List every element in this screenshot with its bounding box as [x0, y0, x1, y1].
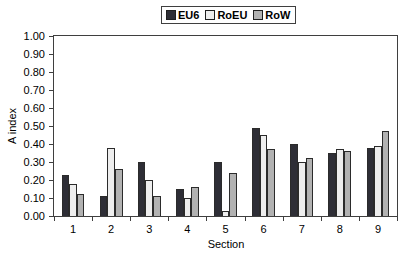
y-tick-label: 0.80 — [0, 66, 45, 79]
y-tick-mark — [49, 72, 53, 73]
eu6-swatch-icon — [166, 10, 176, 20]
x-tick-label: 6 — [249, 223, 279, 236]
x-tick-label: 8 — [325, 223, 355, 236]
bar-row-section-2 — [115, 169, 123, 216]
bar-eu6-section-9 — [367, 148, 375, 216]
bar-row-section-4 — [191, 187, 199, 216]
bar-roeu-section-7 — [298, 162, 306, 216]
y-tick-mark — [49, 36, 53, 37]
bar-roeu-section-1 — [69, 184, 77, 216]
bar-roeu-section-3 — [145, 180, 153, 216]
x-tick-label: 3 — [134, 223, 164, 236]
bar-row-section-3 — [153, 196, 161, 216]
bar-row-section-8 — [344, 151, 352, 216]
x-tick-label: 1 — [58, 223, 88, 236]
x-tick-mark — [321, 217, 322, 221]
legend-item-row: RoW — [253, 9, 290, 21]
x-tick-mark — [397, 217, 398, 221]
y-tick-mark — [49, 54, 53, 55]
bar-row-section-6 — [267, 149, 275, 216]
legend-label-row: RoW — [265, 9, 290, 21]
x-tick-label: 4 — [172, 223, 202, 236]
bar-eu6-section-7 — [290, 144, 298, 216]
bar-eu6-section-1 — [62, 175, 70, 216]
roeu-swatch-icon — [205, 10, 215, 20]
x-tick-label: 9 — [363, 223, 393, 236]
x-axis-title: Section — [208, 238, 245, 250]
legend-item-roeu: RoEU — [205, 9, 247, 21]
y-tick-label: 0.00 — [0, 210, 45, 223]
bar-roeu-section-9 — [374, 146, 382, 216]
bar-roeu-section-8 — [336, 149, 344, 216]
bar-row-section-1 — [77, 194, 85, 216]
x-tick-mark — [54, 217, 55, 221]
y-tick-label: 0.10 — [0, 192, 45, 205]
bar-eu6-section-6 — [252, 128, 260, 216]
bar-chart: EU6RoEURoW A index 1.000.900.800.700.600… — [0, 0, 402, 266]
bar-eu6-section-2 — [100, 196, 108, 216]
bar-eu6-section-3 — [138, 162, 146, 216]
row-swatch-icon — [253, 10, 263, 20]
y-tick-label: 0.70 — [0, 84, 45, 97]
bar-roeu-section-2 — [107, 148, 115, 216]
legend-item-eu6: EU6 — [166, 9, 199, 21]
x-tick-mark — [245, 217, 246, 221]
y-tick-label: 0.90 — [0, 48, 45, 61]
y-tick-label: 0.40 — [0, 138, 45, 151]
bar-eu6-section-8 — [328, 153, 336, 216]
bar-row-section-9 — [382, 131, 390, 216]
y-tick-mark — [49, 108, 53, 109]
y-tick-label: 0.20 — [0, 174, 45, 187]
y-tick-label: 0.30 — [0, 156, 45, 169]
x-tick-mark — [359, 217, 360, 221]
y-tick-mark — [49, 216, 53, 217]
legend-label-eu6: EU6 — [178, 9, 199, 21]
x-tick-mark — [168, 217, 169, 221]
x-tick-mark — [283, 217, 284, 221]
x-tick-label: 7 — [287, 223, 317, 236]
bar-roeu-section-4 — [184, 198, 192, 216]
bar-eu6-section-4 — [176, 189, 184, 216]
legend-label-roeu: RoEU — [217, 9, 247, 21]
plot-area — [53, 35, 398, 217]
x-tick-mark — [130, 217, 131, 221]
bar-eu6-section-5 — [214, 162, 222, 216]
y-tick-mark — [49, 198, 53, 199]
x-tick-label: 2 — [96, 223, 126, 236]
bar-roeu-section-6 — [260, 135, 268, 216]
legend: EU6RoEURoW — [161, 6, 296, 24]
bar-row-section-7 — [306, 158, 314, 216]
y-tick-label: 0.60 — [0, 102, 45, 115]
y-tick-label: 1.00 — [0, 30, 45, 43]
y-tick-mark — [49, 90, 53, 91]
y-tick-mark — [49, 180, 53, 181]
x-tick-mark — [206, 217, 207, 221]
bar-row-section-5 — [229, 173, 237, 216]
y-tick-mark — [49, 126, 53, 127]
y-tick-mark — [49, 144, 53, 145]
y-tick-mark — [49, 162, 53, 163]
y-tick-label: 0.50 — [0, 120, 45, 133]
x-tick-mark — [92, 217, 93, 221]
bar-roeu-section-5 — [222, 211, 230, 216]
x-tick-label: 5 — [211, 223, 241, 236]
